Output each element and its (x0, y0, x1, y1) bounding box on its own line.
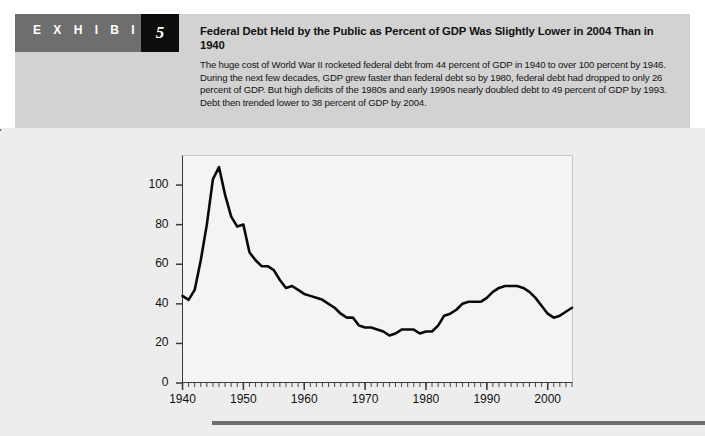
y-tick-label: 0 (129, 375, 169, 389)
x-tick-minor (340, 383, 341, 387)
x-tick-minor (432, 383, 433, 387)
x-tick-minor (395, 383, 396, 387)
x-tick-minor (480, 383, 481, 387)
x-tick-minor (553, 383, 554, 387)
x-tick-minor (188, 383, 189, 387)
x-tick-label: 1940 (160, 392, 206, 406)
x-tick-minor (292, 383, 293, 387)
x-tick-major (547, 383, 549, 390)
x-tick-minor (200, 383, 201, 387)
x-tick-minor (401, 383, 402, 387)
bottom-rule (212, 421, 705, 425)
exhibit-page: E X H I B I T 5 Federal Debt Held by the… (0, 0, 705, 436)
x-tick-minor (517, 383, 518, 387)
x-tick-major (182, 383, 184, 390)
x-tick-minor (456, 383, 457, 387)
x-tick-label: 1960 (281, 392, 327, 406)
x-tick-minor (322, 383, 323, 387)
x-tick-minor (492, 383, 493, 387)
y-tick-label: 60 (129, 256, 169, 270)
x-tick-minor (334, 383, 335, 387)
x-tick-minor (212, 383, 213, 387)
x-tick-minor (279, 383, 280, 387)
x-tick-major (304, 383, 306, 390)
x-tick-label: 1990 (464, 392, 510, 406)
x-tick-minor (505, 383, 506, 387)
x-tick-minor (310, 383, 311, 387)
y-tick-label: 40 (129, 296, 169, 310)
x-tick-minor (225, 383, 226, 387)
x-tick-minor (194, 383, 195, 387)
x-tick-minor (462, 383, 463, 387)
x-tick-minor (231, 383, 232, 387)
x-tick-label: 1970 (342, 392, 388, 406)
x-tick-major (425, 383, 427, 390)
x-tick-minor (237, 383, 238, 387)
x-tick-major (486, 383, 488, 390)
y-tick-mark (176, 343, 183, 345)
x-tick-minor (450, 383, 451, 387)
x-tick-minor (389, 383, 390, 387)
x-tick-minor (413, 383, 414, 387)
y-tick-mark (176, 264, 183, 266)
x-tick-minor (261, 383, 262, 387)
x-tick-minor (267, 383, 268, 387)
x-tick-minor (511, 383, 512, 387)
x-tick-minor (383, 383, 384, 387)
y-tick-label: 80 (129, 217, 169, 231)
x-tick-major (243, 383, 245, 390)
x-tick-minor (565, 383, 566, 387)
y-tick-mark (176, 303, 183, 305)
x-tick-minor (371, 383, 372, 387)
x-tick-minor (523, 383, 524, 387)
x-tick-minor (498, 383, 499, 387)
x-tick-minor (572, 383, 573, 387)
y-tick-label: 20 (129, 335, 169, 349)
x-tick-minor (474, 383, 475, 387)
x-tick-minor (438, 383, 439, 387)
x-tick-label: 1950 (220, 392, 266, 406)
chart-svg (0, 0, 705, 436)
x-tick-minor (328, 383, 329, 387)
x-tick-minor (377, 383, 378, 387)
x-tick-minor (316, 383, 317, 387)
x-tick-minor (273, 383, 274, 387)
x-tick-minor (249, 383, 250, 387)
x-tick-major (364, 383, 366, 390)
y-tick-mark (176, 224, 183, 226)
x-tick-minor (285, 383, 286, 387)
x-tick-minor (407, 383, 408, 387)
x-tick-minor (535, 383, 536, 387)
x-tick-minor (444, 383, 445, 387)
x-tick-minor (419, 383, 420, 387)
x-tick-minor (529, 383, 530, 387)
x-tick-minor (206, 383, 207, 387)
debt-series-line (183, 167, 573, 335)
x-tick-minor (298, 383, 299, 387)
x-tick-minor (468, 383, 469, 387)
x-tick-minor (219, 383, 220, 387)
x-tick-minor (352, 383, 353, 387)
x-tick-minor (559, 383, 560, 387)
x-tick-minor (541, 383, 542, 387)
x-tick-minor (255, 383, 256, 387)
x-tick-label: 1980 (403, 392, 449, 406)
x-tick-minor (346, 383, 347, 387)
x-tick-minor (358, 383, 359, 387)
x-tick-label: 2000 (525, 392, 571, 406)
y-tick-label: 100 (129, 177, 169, 191)
y-tick-mark (176, 184, 183, 186)
y-tick-mark (176, 382, 183, 384)
